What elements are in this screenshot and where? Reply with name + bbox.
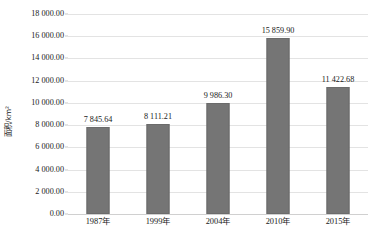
bar[interactable]: [207, 103, 230, 214]
y-axis-tick-labels: 18 000.0016 000.0014 000.0012 000.0010 0…: [14, 14, 68, 214]
bar-series: 7 845.648 111.219 986.3015 859.9011 422.…: [68, 14, 368, 214]
bar-slot: 8 111.21: [128, 14, 188, 214]
bar-value-label: 8 111.21: [144, 113, 172, 121]
y-axis-tick-label: 6 000.00: [35, 143, 64, 151]
y-axis-tick-label: 16 000.00: [31, 32, 64, 40]
bar-chart: 面积/km² 18 000.0016 000.0014 000.0012 000…: [0, 0, 374, 242]
bar-slot: 9 986.30: [188, 14, 248, 214]
y-axis-tick-label: 2 000.00: [35, 188, 64, 196]
x-axis-category-label: 2004年: [206, 218, 231, 226]
plot-area: 7 845.648 111.219 986.3015 859.9011 422.…: [68, 14, 368, 214]
y-axis-tick-label: 14 000.00: [31, 54, 64, 62]
x-axis-category-label: 1999年: [146, 218, 171, 226]
axis-baseline: [68, 214, 368, 215]
bar-value-label: 15 859.90: [262, 27, 295, 35]
x-axis-category-label: 2010年: [266, 218, 291, 226]
bar[interactable]: [327, 87, 350, 214]
bar-value-label: 7 845.64: [84, 116, 113, 124]
y-axis-tick-label: 0.00: [50, 210, 64, 218]
y-axis-tick-label: 8 000.00: [35, 121, 64, 129]
bar[interactable]: [267, 38, 290, 214]
bar-value-label: 9 986.30: [204, 92, 233, 100]
y-axis-tick-label: 4 000.00: [35, 165, 64, 173]
bar-slot: 11 422.68: [308, 14, 368, 214]
bar-value-label: 11 422.68: [322, 76, 354, 84]
y-axis-tick-label: 10 000.00: [31, 99, 64, 107]
bar[interactable]: [87, 127, 110, 214]
x-axis-category-label: 2015年: [326, 218, 351, 226]
y-axis-tick-label: 18 000.00: [31, 10, 64, 18]
bar[interactable]: [147, 124, 170, 214]
bar-slot: 15 859.90: [248, 14, 308, 214]
bar-slot: 7 845.64: [68, 14, 128, 214]
x-axis-category-labels: 1987年1999年2004年2010年2015年: [68, 218, 368, 236]
y-axis-title-label: 面积/km²: [3, 105, 14, 136]
y-axis-tick-label: 12 000.00: [31, 77, 64, 85]
x-axis-category-label: 1987年: [86, 218, 111, 226]
